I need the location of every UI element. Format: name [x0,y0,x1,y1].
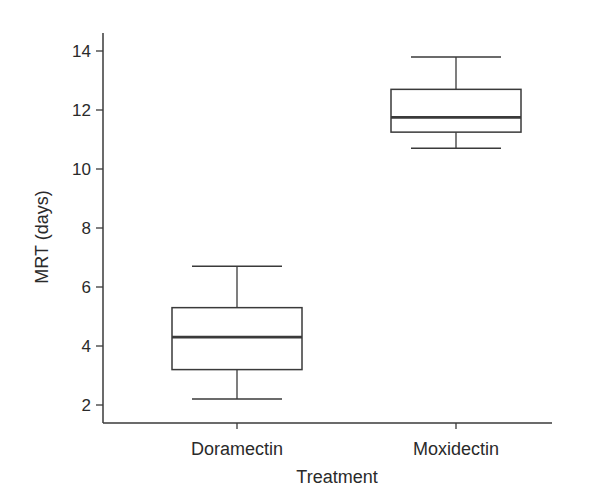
y-tick-label: 10 [72,160,91,179]
y-tick-label: 12 [72,101,91,120]
x-axis-label: Treatment [296,467,377,487]
y-tick-label: 4 [82,337,91,356]
y-tick-label: 8 [82,219,91,238]
x-axis: DoramectinMoxidectin [103,423,552,459]
y-tick-label: 14 [72,42,91,61]
y-tick-label: 6 [82,278,91,297]
box-plot-chart: 2468101214 DoramectinMoxidectin MRT (day… [0,0,592,500]
y-axis-label: MRT (days) [32,190,52,283]
x-tick-label: Doramectin [191,439,283,459]
y-tick-label: 2 [82,396,91,415]
iqr-box [172,308,302,370]
boxes [172,57,521,399]
box-doramectin [172,266,302,399]
x-tick-label: Moxidectin [413,439,499,459]
box-moxidectin [391,57,521,148]
y-axis: 2468101214 [72,33,103,423]
iqr-box [391,89,521,132]
